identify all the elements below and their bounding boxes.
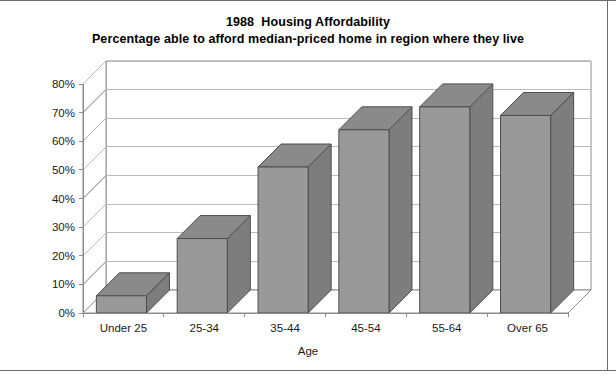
bar-35-44 (258, 144, 331, 313)
x-tick-label-over-65: Over 65 (478, 322, 578, 335)
bar-45-54 (339, 107, 412, 313)
y-tick-label-50: 50% (23, 164, 75, 176)
bar-front-face (96, 296, 146, 313)
y-tick-label-20: 20% (23, 250, 75, 262)
bar-front-face (258, 167, 308, 313)
bar-front-face (501, 115, 551, 313)
plot-area: 0%10%20%30%40%50%60%70%80%Under 2525-343… (0, 0, 616, 380)
y-tick-label-80: 80% (23, 78, 75, 90)
x-axis-title: Age (0, 345, 616, 357)
bar-side-face (470, 84, 493, 313)
y-tick-label-40: 40% (23, 193, 75, 205)
y-tick-label-30: 30% (23, 221, 75, 233)
bar-side-face (551, 92, 574, 313)
bar-side-face (389, 107, 412, 313)
bar-front-face (420, 107, 470, 313)
bar-over-65 (501, 92, 574, 313)
bar-front-face (339, 130, 389, 313)
chart-figure: 1988 Housing Affordability Percentage ab… (0, 0, 616, 380)
y-tick-label-60: 60% (23, 135, 75, 147)
y-tick-label-0: 0% (23, 307, 75, 319)
y-tick-label-10: 10% (23, 278, 75, 290)
bar-55-64 (420, 84, 493, 313)
bar-side-face (308, 144, 331, 313)
y-tick-label-70: 70% (23, 107, 75, 119)
bar-front-face (177, 239, 227, 313)
bar-25-34 (177, 216, 250, 313)
